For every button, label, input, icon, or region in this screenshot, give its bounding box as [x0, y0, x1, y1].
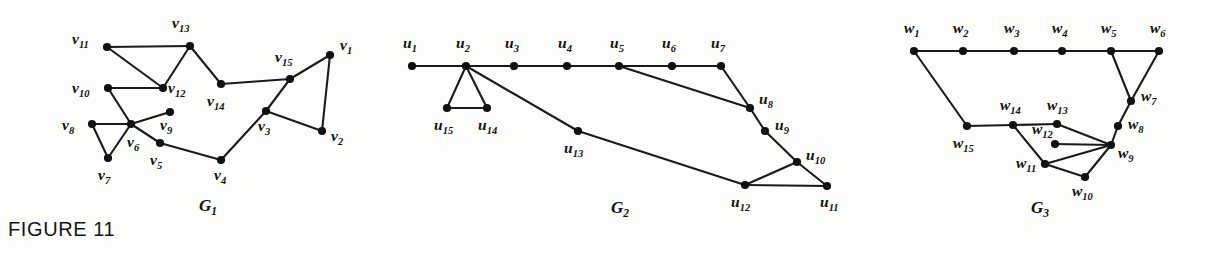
edge-v1-v2 — [322, 55, 330, 131]
edge-u13-u12 — [578, 131, 745, 185]
vertex-label-v14: v14 — [207, 92, 224, 112]
graph-caption-g3: G3 — [1031, 198, 1049, 219]
vertex-w1 — [910, 47, 918, 55]
figure-caption: FIGURE 11 — [8, 218, 115, 241]
edge-u7-u8 — [721, 66, 750, 108]
vertex-label-v9: v9 — [160, 116, 173, 136]
vertex-w9 — [1107, 141, 1115, 149]
vertex-u6 — [668, 62, 676, 70]
vertex-w2 — [959, 47, 967, 55]
vertex-w4 — [1058, 47, 1066, 55]
vertex-u12 — [741, 181, 749, 189]
edge-u9-u10 — [765, 131, 797, 162]
vertex-label-u11: u11 — [820, 193, 839, 213]
vertex-group: v1v2v3v4v5v6v7v8v9v10v11v12v13v14v15 — [62, 14, 352, 186]
vertex-v15 — [286, 75, 294, 83]
edge-v4-v5 — [160, 143, 221, 160]
vertex-v7 — [104, 154, 112, 162]
vertex-v1 — [326, 51, 334, 59]
vertex-label-w14: w14 — [1000, 96, 1021, 116]
edge-v5-v6 — [131, 124, 160, 143]
vertex-u14 — [483, 104, 491, 112]
vertex-label-w8: w8 — [1128, 115, 1144, 135]
vertex-label-u5: u5 — [610, 34, 624, 54]
graph-g2: u1u2u3u4u5u6u7u8u9u10u11u12u13u14u15G2 — [403, 34, 839, 219]
vertex-label-v1: v1 — [340, 36, 352, 56]
vertex-label-w2: w2 — [953, 19, 969, 39]
figure-container: v1v2v3v4v5v6v7v8v9v10v11v12v13v14v15G1u1… — [0, 0, 1219, 255]
graph-caption-g2: G2 — [611, 198, 629, 219]
edge-v13-v14 — [190, 46, 221, 84]
vertex-w12 — [1051, 140, 1059, 148]
edge-v1-v15 — [290, 55, 330, 79]
vertex-label-u1: u1 — [403, 34, 417, 54]
vertex-u4 — [563, 62, 571, 70]
vertex-u8 — [746, 104, 754, 112]
vertex-label-u7: u7 — [711, 34, 726, 54]
graph-caption-g1: G1 — [199, 196, 217, 217]
vertex-v6 — [127, 120, 135, 128]
vertex-v4 — [217, 156, 225, 164]
vertex-label-w15: w15 — [953, 134, 974, 154]
vertex-w5 — [1107, 47, 1115, 55]
edge-group — [412, 66, 827, 186]
vertex-w6 — [1155, 47, 1163, 55]
vertex-label-v5: v5 — [150, 151, 162, 171]
edge-v7-v8 — [92, 124, 108, 158]
vertex-u13 — [574, 127, 582, 135]
vertex-label-u15: u15 — [434, 116, 453, 136]
vertex-label-w6: w6 — [1150, 19, 1166, 39]
vertex-label-v11: v11 — [72, 30, 89, 50]
vertex-label-w10: w10 — [1072, 182, 1094, 202]
vertex-label-u12: u12 — [731, 193, 751, 213]
vertex-label-u6: u6 — [662, 34, 677, 54]
edge-w15-w14 — [967, 125, 1013, 126]
vertex-u9 — [761, 127, 769, 135]
edge-u5-u8 — [619, 66, 750, 108]
vertex-w14 — [1009, 121, 1017, 129]
vertex-w3 — [1010, 47, 1018, 55]
vertex-label-v4: v4 — [214, 166, 226, 186]
vertex-w15 — [963, 122, 971, 130]
vertex-label-v15: v15 — [275, 48, 292, 68]
vertex-v8 — [88, 120, 96, 128]
vertex-label-w4: w4 — [1052, 19, 1068, 39]
vertex-u2 — [462, 62, 470, 70]
vertex-label-w11: w11 — [1016, 154, 1036, 174]
vertex-u11 — [823, 182, 831, 190]
graph-diagram-canvas: v1v2v3v4v5v6v7v8v9v10v11v12v13v14v15G1u1… — [0, 0, 1219, 255]
vertex-label-u10: u10 — [806, 146, 826, 166]
vertex-label-u4: u4 — [558, 34, 572, 54]
vertex-label-w1: w1 — [904, 19, 920, 39]
vertex-label-v8: v8 — [62, 116, 75, 136]
vertex-w7 — [1127, 97, 1135, 105]
vertex-label-u3: u3 — [505, 34, 519, 54]
vertex-u5 — [615, 62, 623, 70]
edge-v11-v12 — [107, 47, 163, 88]
vertex-v3 — [262, 107, 270, 115]
vertex-v14 — [217, 80, 225, 88]
edge-v3-v15 — [266, 79, 290, 111]
vertex-label-u2: u2 — [456, 34, 471, 54]
vertex-v13 — [186, 42, 194, 50]
vertex-v10 — [104, 84, 112, 92]
vertex-label-v6: v6 — [127, 133, 140, 153]
vertex-u7 — [717, 62, 725, 70]
vertex-u3 — [510, 62, 518, 70]
edge-w1-w15 — [914, 51, 967, 126]
vertex-label-v2: v2 — [331, 127, 344, 147]
vertex-label-w7: w7 — [1141, 87, 1157, 107]
edge-u8-u9 — [750, 108, 765, 131]
vertex-u10 — [793, 158, 801, 166]
edge-w13-w9 — [1057, 124, 1111, 145]
vertex-label-v3: v3 — [258, 117, 270, 137]
vertex-label-w9: w9 — [1118, 144, 1134, 164]
vertex-label-u13: u13 — [564, 139, 583, 159]
vertex-label-v13: v13 — [172, 14, 189, 34]
vertex-label-u9: u9 — [775, 116, 790, 136]
edge-v14-v15 — [221, 79, 290, 84]
vertex-label-u8: u8 — [759, 90, 774, 110]
vertex-label-w5: w5 — [1101, 19, 1117, 39]
edge-w11-w10 — [1045, 164, 1085, 177]
vertex-u1 — [408, 62, 416, 70]
